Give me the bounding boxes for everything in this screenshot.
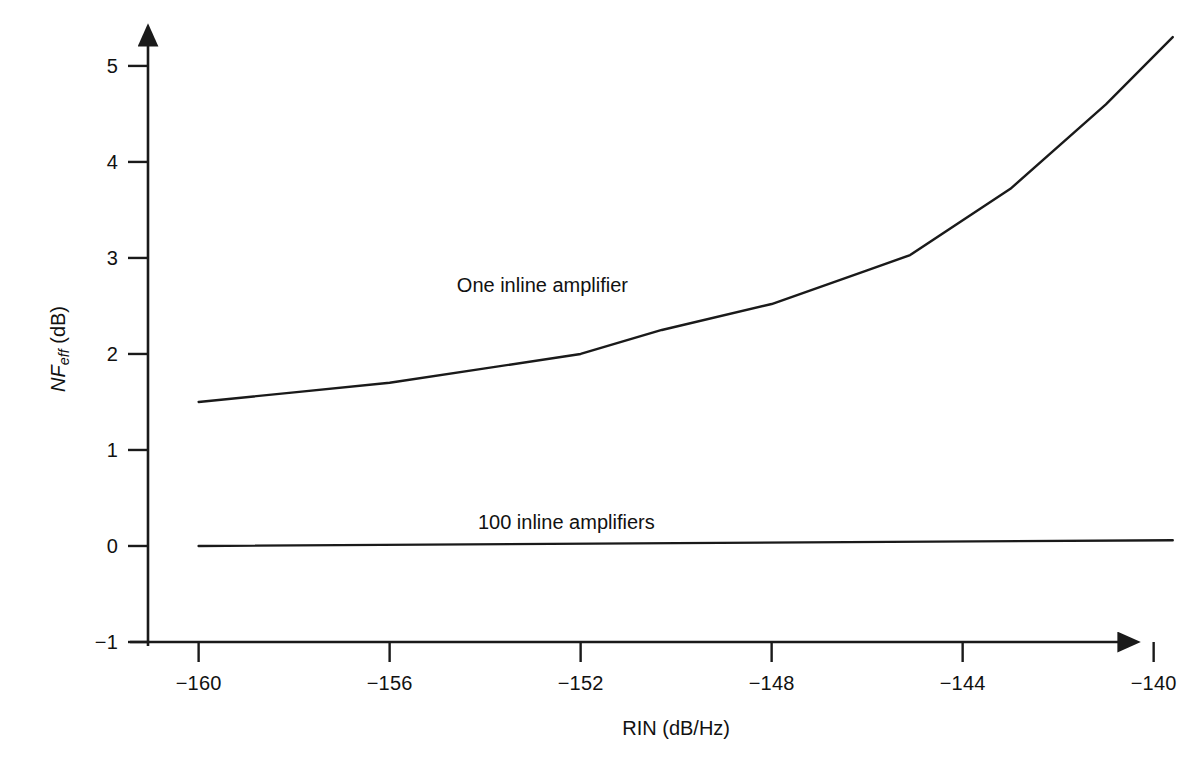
x-tick-label: −160 xyxy=(176,672,222,695)
x-tick-label: −152 xyxy=(558,672,604,695)
figure-canvas: −1012345 −160−156−152−148−144−140 One in… xyxy=(0,0,1182,759)
data-series-lines xyxy=(199,37,1173,546)
y-tick-label: 1 xyxy=(107,438,118,461)
y-axis-title-subscript: eff xyxy=(56,349,72,365)
series-annotation-1: 100 inline amplifiers xyxy=(478,510,655,533)
y-tick-label: 0 xyxy=(107,534,118,557)
x-tick-label: −148 xyxy=(749,672,795,695)
y-tick-label: −1 xyxy=(95,631,118,654)
axis-lines xyxy=(130,44,1120,646)
y-tick-label: 3 xyxy=(107,246,118,269)
y-axis-title: NFeff (dB) xyxy=(47,306,72,392)
y-tick-label: 4 xyxy=(107,150,118,173)
x-axis-ticks xyxy=(199,642,1154,662)
y-tick-label: 5 xyxy=(107,54,118,77)
x-tick-label: −144 xyxy=(940,672,986,695)
x-tick-label: −156 xyxy=(367,672,413,695)
y-axis-title-units: (dB) xyxy=(47,306,69,349)
y-axis-ticks xyxy=(128,66,148,642)
series-annotation-0: One inline amplifier xyxy=(457,273,628,296)
x-axis-title: RIN (dB/Hz) xyxy=(622,717,730,740)
x-tick-label: −140 xyxy=(1131,672,1177,695)
y-axis-title-symbol: NF xyxy=(47,365,69,392)
series-line-0 xyxy=(199,37,1173,402)
series-line-1 xyxy=(199,540,1173,546)
plot-svg xyxy=(0,0,1182,759)
y-tick-label: 2 xyxy=(107,342,118,365)
